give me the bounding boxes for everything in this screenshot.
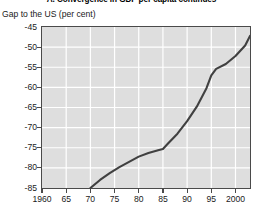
- x-tick-label: 2000: [215, 195, 255, 204]
- x-tick-mark: [235, 189, 236, 193]
- x-tick-mark: [90, 189, 91, 193]
- x-tick-mark: [41, 189, 42, 193]
- x-tick-mark: [114, 189, 115, 193]
- x-tick-mark: [138, 189, 139, 193]
- chart-figure: A. Convergence in GDP per capita continu…: [0, 0, 263, 218]
- x-tick-mark: [66, 189, 67, 193]
- x-tick-label-group: 1960657075808590952000: [0, 0, 263, 218]
- x-tick-mark: [162, 189, 163, 193]
- x-tick-mark: [187, 189, 188, 193]
- x-tick-mark: [211, 189, 212, 193]
